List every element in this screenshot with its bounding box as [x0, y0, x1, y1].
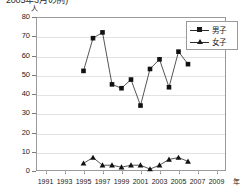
legend-label-boys: 男子: [212, 26, 226, 35]
x-axis-minor-tick-mark: [160, 171, 161, 173]
y-axis-tick-label: 10: [4, 148, 30, 156]
square-marker: [129, 77, 134, 82]
x-axis-minor-tick-mark: [198, 171, 199, 173]
square-marker: [91, 36, 96, 41]
square-marker: [110, 82, 115, 87]
square-marker: [119, 86, 124, 91]
y-axis-tick-label: 30: [4, 109, 30, 117]
square-marker: [81, 69, 86, 74]
y-axis-tick-label: 80: [4, 13, 30, 21]
legend-label-girls: 女子: [212, 38, 226, 47]
y-axis-tick-label: 50: [4, 71, 30, 79]
legend-item-girls[interactable]: 女子: [187, 36, 237, 48]
triangle-marker: [185, 158, 191, 163]
triangle-marker-icon: [190, 37, 209, 47]
triangle-marker: [176, 155, 182, 160]
y-axis-tick-label: 0: [4, 167, 30, 175]
triangle-marker: [81, 160, 87, 165]
x-axis-minor-tick-mark: [122, 171, 123, 173]
x-axis-minor-tick-mark: [179, 171, 180, 173]
square-marker: [186, 62, 191, 67]
y-axis-tick-label: 40: [4, 90, 30, 98]
square-marker: [148, 67, 153, 72]
legend-item-boys[interactable]: 男子: [187, 24, 237, 36]
square-marker: [176, 49, 181, 54]
square-marker: [100, 30, 105, 35]
triangle-marker: [147, 166, 153, 171]
y-axis-tick-label: 60: [4, 52, 30, 60]
triangle-marker: [90, 155, 96, 160]
y-axis-tick-label: 20: [4, 129, 30, 137]
y-axis-tick-label: 70: [4, 32, 30, 40]
series-girls: [81, 155, 191, 172]
y-axis-tick-mark: [32, 171, 36, 172]
x-axis-minor-tick-mark: [217, 171, 218, 173]
square-marker: [138, 103, 143, 108]
square-marker: [167, 85, 172, 90]
chart-legend: 男子 女子: [186, 21, 238, 50]
x-axis-minor-tick-mark: [65, 171, 66, 173]
x-axis-tick-label: 2009: [205, 178, 229, 186]
x-axis-minor-tick-mark: [84, 171, 85, 173]
x-axis-minor-tick-mark: [46, 171, 47, 173]
x-axis-minor-tick-mark: [103, 171, 104, 173]
series-boys: [81, 30, 190, 108]
series-line: [84, 32, 189, 105]
y-axis-unit-label: 人: [31, 5, 38, 13]
x-axis-minor-tick-mark: [141, 171, 142, 173]
series-line: [84, 158, 189, 170]
chart-root: 2005年3月の例) 人 年 01020304050607080 1991199…: [0, 0, 245, 195]
square-marker-icon: [190, 25, 209, 35]
square-marker: [157, 57, 162, 62]
triangle-marker: [157, 162, 163, 167]
x-axis-unit-label: 年: [233, 178, 240, 186]
